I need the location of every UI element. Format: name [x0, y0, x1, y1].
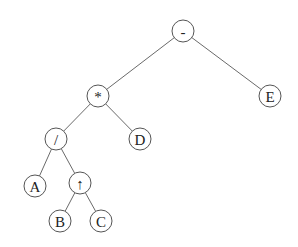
- node-label: E: [265, 89, 274, 105]
- node-label: A: [30, 179, 41, 195]
- tree-node-A: A: [24, 175, 46, 197]
- tree-node-minus: -: [172, 20, 194, 42]
- node-label: -: [181, 24, 186, 40]
- tree-node-D: D: [129, 128, 151, 150]
- edge-divide-A: [39, 149, 51, 176]
- edge-divide-up: [61, 149, 74, 174]
- tree-node-B: B: [49, 210, 71, 232]
- edge-times-D: [106, 104, 133, 131]
- tree-node-up: ↑: [69, 172, 91, 194]
- tree-node-C: C: [90, 210, 112, 232]
- node-label: ↑: [76, 176, 84, 192]
- node-label: *: [94, 89, 102, 105]
- node-label: B: [55, 214, 65, 230]
- tree-node-E: E: [259, 85, 281, 107]
- edge-up-B: [65, 193, 75, 212]
- node-label: D: [135, 132, 146, 148]
- edge-times-divide: [64, 104, 91, 131]
- expression-tree-diagram: -*E/DA↑BC: [0, 0, 298, 247]
- edge-up-C: [85, 193, 95, 212]
- node-label: C: [96, 214, 106, 230]
- tree-nodes: -*E/DA↑BC: [24, 20, 281, 232]
- edge-minus-E: [192, 38, 261, 90]
- edge-minus-times: [107, 38, 175, 90]
- tree-node-divide: /: [45, 128, 67, 150]
- tree-node-times: *: [87, 85, 109, 107]
